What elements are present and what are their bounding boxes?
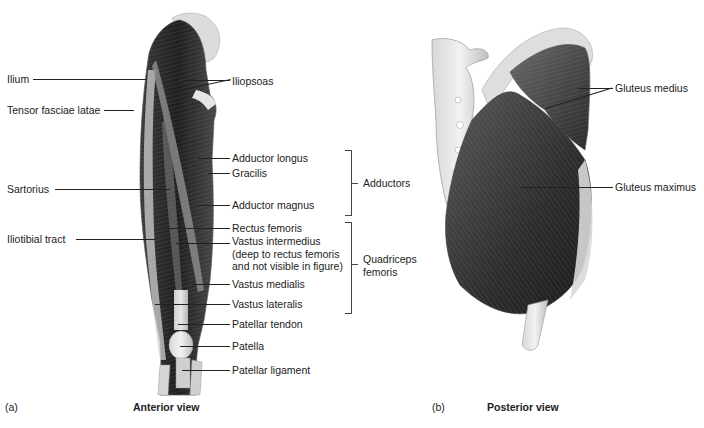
- muscle-illustration: [0, 0, 704, 428]
- leader-iliotibial-tract: [76, 239, 156, 240]
- leader-tensor-fasciae-latae: [104, 110, 134, 111]
- panel-a-letter: (a): [5, 401, 18, 413]
- leader-patellar-ligament: [182, 370, 230, 371]
- adductors-bracket-tick: [352, 183, 358, 184]
- leader-adductor-longus: [198, 158, 230, 159]
- adductors-bracket: [345, 150, 352, 216]
- panel-b-title: Posterior view: [487, 401, 559, 413]
- label-patellar-ligament: Patellar ligament: [232, 364, 310, 376]
- label-gluteus-medius: Gluteus medius: [615, 82, 688, 94]
- label-adductor-longus: Adductor longus: [232, 152, 308, 164]
- label-patella: Patella: [232, 340, 264, 352]
- label-tensor-fasciae-latae: Tensor fasciae latae: [7, 104, 100, 116]
- label-iliotibial-tract: Iliotibial tract: [7, 233, 65, 245]
- leader-gluteus-maximus: [520, 187, 613, 188]
- quadriceps-bracket: [345, 222, 352, 314]
- leader-adductor-magnus: [196, 205, 230, 206]
- label-adductor-magnus: Adductor magnus: [232, 199, 314, 211]
- label-patellar-tendon: Patellar tendon: [232, 318, 303, 330]
- label-vastus-lateralis: Vastus lateralis: [232, 298, 302, 310]
- leader-gracilis: [208, 173, 230, 174]
- leader-ilium: [33, 79, 146, 80]
- label-iliopsoas: Iliopsoas: [232, 75, 273, 87]
- label-vastus-intermedius: Vastus intermedius (deep to rectus femor…: [232, 235, 343, 273]
- group-label-adductors: Adductors: [363, 177, 410, 189]
- panel-b-letter: (b): [432, 401, 445, 413]
- label-gracilis: Gracilis: [232, 167, 267, 179]
- leader-vastus-medialis: [192, 284, 230, 285]
- label-rectus-femoris: Rectus femoris: [232, 222, 302, 234]
- label-gluteus-maximus: Gluteus maximus: [615, 181, 696, 193]
- quadriceps-bracket-tick: [352, 264, 358, 265]
- leader-patella: [180, 346, 230, 347]
- posterior-hip-art: [432, 28, 593, 350]
- label-sartorius: Sartorius: [7, 183, 49, 195]
- group-label-quadriceps-femoris: Quadriceps femoris: [363, 253, 417, 278]
- label-vastus-medialis: Vastus medialis: [232, 278, 305, 290]
- leader-patellar-tendon: [178, 324, 230, 325]
- leader-rectus-femoris: [168, 228, 230, 229]
- leader-vastus-intermedius: [176, 243, 230, 244]
- label-ilium: Ilium: [7, 73, 29, 85]
- leader-vastus-lateralis: [155, 304, 230, 305]
- leader-sartorius: [55, 189, 170, 190]
- panel-a-title: Anterior view: [133, 401, 200, 413]
